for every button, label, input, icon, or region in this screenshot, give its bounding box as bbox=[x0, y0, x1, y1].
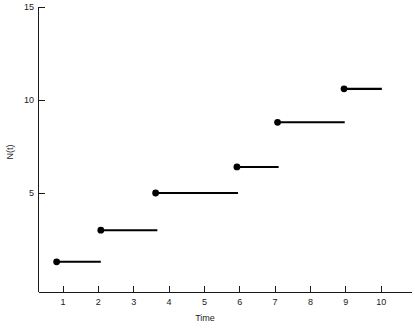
step-dot-group bbox=[53, 85, 347, 265]
y-tick-label-5: 5 bbox=[29, 188, 34, 198]
x-tick-label-10: 10 bbox=[376, 297, 386, 307]
x-tick-label-8: 8 bbox=[308, 297, 313, 307]
step-point-5 bbox=[274, 119, 281, 126]
x-axis-title: Time bbox=[195, 313, 215, 323]
step-point-1 bbox=[53, 258, 60, 265]
x-tick-label-2: 2 bbox=[96, 297, 101, 307]
y-tick-group bbox=[39, 7, 46, 193]
x-tick-label-9: 9 bbox=[343, 297, 348, 307]
y-axis-title: N(t) bbox=[5, 145, 15, 160]
x-tick-label-7: 7 bbox=[273, 297, 278, 307]
step-point-6 bbox=[341, 85, 348, 92]
x-tick-label-group: 12345678910 bbox=[60, 297, 386, 307]
step-point-3 bbox=[152, 190, 159, 197]
x-tick-label-3: 3 bbox=[131, 297, 136, 307]
step-line-group bbox=[57, 89, 382, 262]
x-tick-label-4: 4 bbox=[167, 297, 172, 307]
y-tick-label-10: 10 bbox=[24, 95, 34, 105]
x-tick-label-1: 1 bbox=[60, 297, 65, 307]
x-tick-label-5: 5 bbox=[202, 297, 207, 307]
chart-figure: 51015 12345678910 Time N(t) bbox=[0, 0, 415, 330]
x-tick-group bbox=[63, 286, 381, 293]
step-point-4 bbox=[234, 164, 241, 171]
step-function-chart: 51015 12345678910 Time N(t) bbox=[0, 0, 415, 330]
y-tick-label-group: 51015 bbox=[24, 2, 34, 198]
y-tick-label-15: 15 bbox=[24, 2, 34, 12]
x-tick-label-6: 6 bbox=[237, 297, 242, 307]
step-point-2 bbox=[97, 227, 104, 234]
